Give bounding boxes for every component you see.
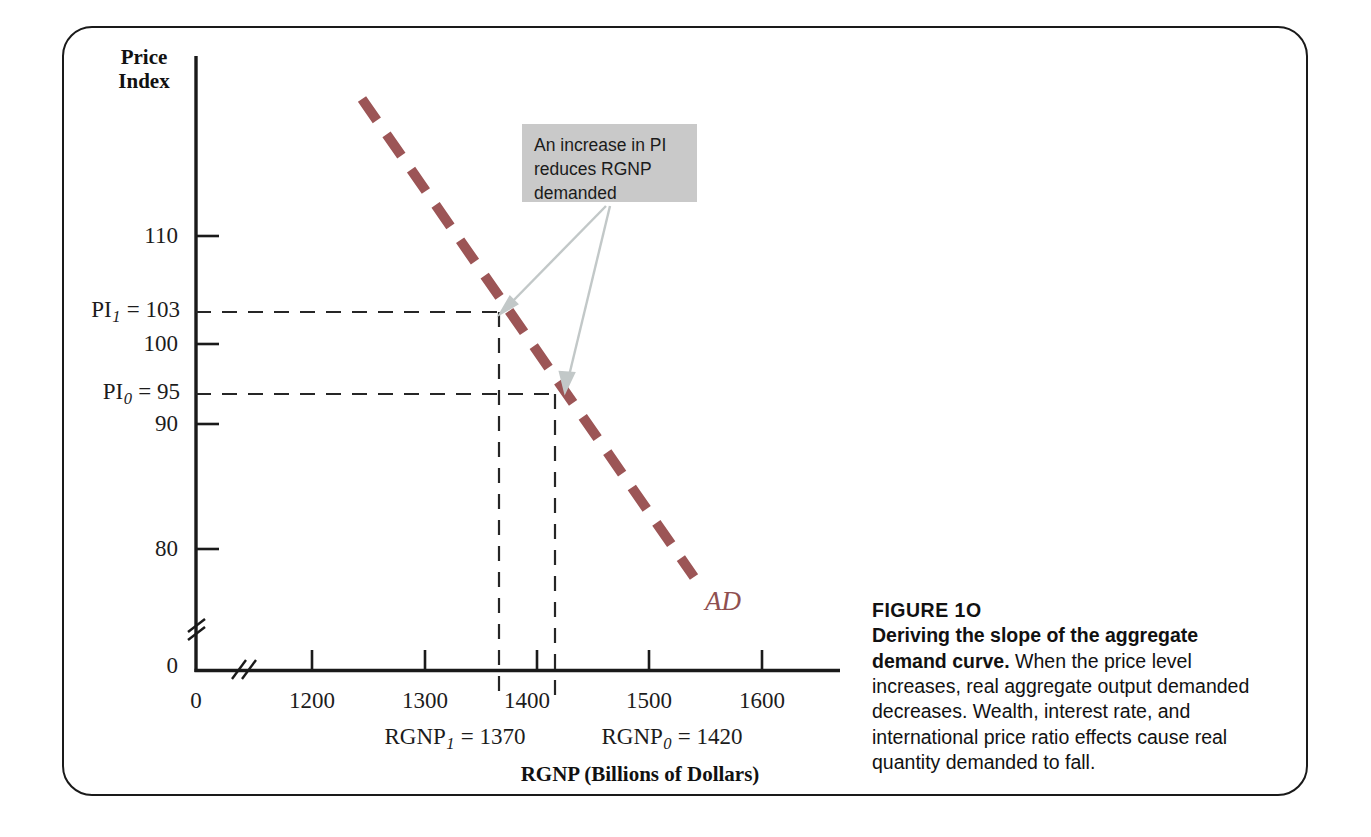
y-origin-label: 0 <box>98 653 178 679</box>
pi0-subscript: 0 <box>123 389 132 408</box>
figure-number: FIGURE 1O <box>872 598 1264 623</box>
callout-line-3: demanded <box>534 181 687 205</box>
ad-curve-label: AD <box>705 586 741 617</box>
pi1-equals: = <box>121 297 145 322</box>
rgnp0-subscript: 0 <box>663 734 672 753</box>
x-origin-label: 0 <box>161 688 231 714</box>
y-tick-label-90: 90 <box>98 411 178 437</box>
pi1-value: 103 <box>146 297 181 322</box>
pi0-equals: = <box>133 379 157 404</box>
pi1-marker-label: PI1 = 103 <box>18 297 180 327</box>
pi0-marker-label: PI0 = 95 <box>18 379 180 409</box>
pi1-prefix: PI <box>91 297 111 322</box>
figure-root: Price Index RGNP (Billions of Dollars) 1… <box>0 0 1371 837</box>
y-axis-title: Price Index <box>96 45 192 93</box>
x-tick-label-1600: 1600 <box>717 688 807 714</box>
rgnp1-marker-label: RGNP1 = 1370 <box>340 724 570 754</box>
pi0-value: 95 <box>157 379 180 404</box>
x-tick-label-1500: 1500 <box>604 688 694 714</box>
rgnp0-value: 1420 <box>697 724 743 749</box>
y-axis-title-line1: Price <box>96 45 192 69</box>
x-tick-label-1400: 1400 <box>482 688 572 714</box>
x-tick-label-1200: 1200 <box>267 688 357 714</box>
x-tick-label-1300: 1300 <box>380 688 470 714</box>
y-tick-label-80: 80 <box>98 536 178 562</box>
rgnp1-value: 1370 <box>480 724 526 749</box>
rgnp1-prefix: RGNP <box>384 724 445 749</box>
y-tick-label-100: 100 <box>98 331 178 357</box>
pi1-subscript: 1 <box>112 307 121 326</box>
rgnp0-equals: = <box>672 724 696 749</box>
callout-line-1: An increase in PI <box>534 133 687 157</box>
rgnp1-subscript: 1 <box>446 734 455 753</box>
y-axis-title-line2: Index <box>96 69 192 93</box>
callout-box: An increase in PI reduces RGNP demanded <box>522 124 697 202</box>
rgnp1-equals: = <box>455 724 479 749</box>
y-tick-label-110: 110 <box>98 223 178 249</box>
rgnp0-prefix: RGNP <box>601 724 662 749</box>
pi0-prefix: PI <box>103 379 123 404</box>
x-axis-title: RGNP (Billions of Dollars) <box>430 762 850 786</box>
callout-line-2: reduces RGNP <box>534 157 687 181</box>
figure-caption: FIGURE 1O Deriving the slope of the aggr… <box>872 598 1264 775</box>
rgnp0-marker-label: RGNP0 = 1420 <box>557 724 787 754</box>
